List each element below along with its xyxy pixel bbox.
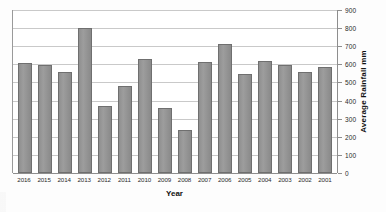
y-tick-700 — [338, 46, 342, 47]
bar-2002[interactable] — [298, 72, 313, 173]
x-tick-label-2007: 2007 — [195, 174, 215, 186]
y-tick-600 — [338, 64, 342, 65]
bar-cell — [275, 10, 295, 173]
x-tick-label-2006: 2006 — [215, 174, 235, 186]
bar-2005[interactable] — [238, 74, 253, 173]
y-tick-label-800: 800 — [345, 25, 356, 32]
x-tick-label-2010: 2010 — [134, 174, 154, 186]
bar-cell — [55, 10, 75, 173]
x-tick-label-2015: 2015 — [34, 174, 54, 186]
x-tick-label-2001: 2001 — [315, 174, 335, 186]
x-tick-label-2011: 2011 — [114, 174, 134, 186]
x-tick-label-2013: 2013 — [74, 174, 94, 186]
y-tick-label-400: 400 — [345, 97, 356, 104]
y-tick-label-900: 900 — [345, 7, 356, 14]
y-tick-label-200: 200 — [345, 133, 356, 140]
bar-cell — [115, 10, 135, 173]
bar-cell — [315, 10, 335, 173]
bar-cell — [135, 10, 155, 173]
bar-2003[interactable] — [278, 65, 293, 173]
x-axis-title: Year — [12, 189, 337, 198]
y-tick-0 — [338, 173, 342, 174]
bar-cell — [15, 10, 35, 173]
plot-area — [12, 10, 337, 173]
x-tick-label-2004: 2004 — [255, 174, 275, 186]
bar-2007[interactable] — [198, 62, 213, 173]
x-tick-label-2012: 2012 — [94, 174, 114, 186]
bar-series — [13, 10, 337, 173]
bar-2012[interactable] — [98, 106, 113, 173]
bar-2011[interactable] — [118, 86, 133, 173]
bar-cell — [235, 10, 255, 173]
bar-2010[interactable] — [138, 59, 153, 173]
bar-2001[interactable] — [318, 67, 333, 173]
y-tick-label-600: 600 — [345, 61, 356, 68]
bar-cell — [155, 10, 175, 173]
bar-2013[interactable] — [78, 28, 93, 173]
bar-2015[interactable] — [38, 65, 53, 173]
bar-2004[interactable] — [258, 61, 273, 173]
y-axis: 0100200300400500600700800900 — [337, 10, 343, 173]
bar-2009[interactable] — [158, 108, 173, 173]
y-tick-800 — [338, 28, 342, 29]
bar-cell — [95, 10, 115, 173]
x-tick-label-2002: 2002 — [295, 174, 315, 186]
bar-2016[interactable] — [18, 63, 33, 173]
y-axis-title: Average Rainfall mm — [356, 12, 370, 170]
bar-cell — [75, 10, 95, 173]
y-tick-label-700: 700 — [345, 43, 356, 50]
x-tick-label-2009: 2009 — [154, 174, 174, 186]
y-tick-label-500: 500 — [345, 79, 356, 86]
rainfall-bar-chart: 0100200300400500600700800900 Average Rai… — [0, 0, 386, 212]
y-axis-title-label: Average Rainfall mm — [359, 50, 368, 133]
y-tick-400 — [338, 101, 342, 102]
y-tick-label-300: 300 — [345, 115, 356, 122]
y-tick-200 — [338, 137, 342, 138]
y-tick-100 — [338, 155, 342, 156]
y-tick-500 — [338, 82, 342, 83]
x-tick-label-2005: 2005 — [235, 174, 255, 186]
bar-cell — [215, 10, 235, 173]
y-tick-300 — [338, 119, 342, 120]
bar-2008[interactable] — [178, 130, 193, 173]
bar-2006[interactable] — [218, 44, 233, 173]
x-tick-label-2003: 2003 — [275, 174, 295, 186]
y-tick-label-0: 0 — [345, 170, 349, 177]
y-tick-900 — [338, 10, 342, 11]
bar-cell — [255, 10, 275, 173]
x-tick-label-2014: 2014 — [54, 174, 74, 186]
bar-cell — [295, 10, 315, 173]
bar-cell — [35, 10, 55, 173]
x-axis-tick-labels: 2016201520142013201220112010200920082007… — [12, 174, 337, 186]
x-tick-label-2008: 2008 — [175, 174, 195, 186]
bar-cell — [175, 10, 195, 173]
bar-2014[interactable] — [58, 72, 73, 173]
y-tick-label-100: 100 — [345, 151, 356, 158]
bar-cell — [195, 10, 215, 173]
x-tick-label-2016: 2016 — [14, 174, 34, 186]
